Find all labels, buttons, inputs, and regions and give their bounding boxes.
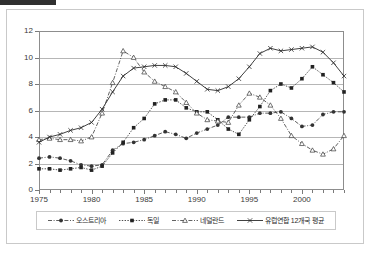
x-tick-minor: [81, 190, 82, 193]
data-point: [321, 152, 326, 156]
data-point: [153, 134, 157, 138]
data-point: [152, 79, 157, 83]
chart-legend: 오스트리아독일네덜란드유럽연합 12개국 평균: [36, 211, 336, 230]
legend-item-1[interactable]: 오스트리아: [48, 216, 106, 225]
data-point: [300, 125, 304, 129]
data-point: [132, 126, 136, 130]
chart-page: 024681012 197519801985199019952000 오스트리아…: [0, 0, 371, 254]
data-point: [132, 140, 136, 144]
data-point: [321, 113, 325, 117]
data-point: [311, 123, 315, 127]
data-point: [142, 117, 146, 121]
data-point: [37, 167, 41, 171]
data-point: [153, 102, 157, 106]
x-tick-major: [197, 190, 198, 194]
x-tick-minor: [323, 190, 324, 193]
x-tick-minor: [312, 190, 313, 193]
data-point: [216, 123, 220, 127]
data-point: [331, 147, 336, 151]
data-point: [310, 148, 315, 152]
x-tick-minor: [123, 190, 124, 193]
data-point: [268, 103, 273, 107]
x-tick-minor: [218, 190, 219, 193]
x-tick-label: 2000: [287, 196, 317, 204]
x-tick-minor: [207, 190, 208, 193]
data-point: [258, 111, 262, 115]
legend-item-2[interactable]: 독일: [119, 216, 159, 225]
data-point: [321, 50, 325, 54]
data-point: [290, 117, 294, 121]
data-point: [290, 86, 294, 90]
y-tick-label: 2: [3, 160, 33, 168]
data-point: [110, 80, 115, 84]
x-tick-minor: [281, 190, 282, 193]
data-point: [300, 141, 305, 145]
data-point: [163, 84, 168, 88]
x-tick-label: 1985: [129, 196, 159, 204]
legend-item-4[interactable]: 유럽연합 12개국 평균: [237, 216, 325, 225]
x-tick-minor: [291, 190, 292, 193]
data-point: [184, 100, 189, 104]
y-tick-label: 10: [3, 54, 33, 62]
x-tick-minor: [239, 190, 240, 193]
legend-swatch-open-triangle-icon: [172, 216, 198, 225]
data-point: [226, 120, 231, 124]
series-1: [37, 110, 346, 168]
data-point: [174, 132, 178, 136]
series-line: [39, 47, 344, 142]
data-point: [89, 135, 94, 139]
data-point: [48, 167, 52, 171]
data-point: [173, 90, 178, 94]
data-point: [279, 82, 283, 86]
series-layer: [39, 31, 344, 190]
data-point: [142, 138, 146, 142]
data-point: [195, 79, 199, 83]
legend-item-3[interactable]: 네덜란드: [172, 216, 224, 225]
data-point: [205, 110, 209, 114]
data-point: [279, 110, 283, 114]
data-point: [69, 167, 73, 171]
data-point: [121, 141, 125, 145]
x-tick-minor: [71, 190, 72, 193]
data-point: [174, 98, 178, 102]
data-point: [90, 168, 94, 172]
data-point: [227, 127, 231, 131]
x-tick-minor: [102, 190, 103, 193]
data-point: [184, 136, 188, 140]
series-3: [37, 48, 347, 156]
data-point: [37, 156, 41, 160]
x-tick-major: [249, 190, 250, 194]
x-tick-major: [144, 190, 145, 194]
data-point: [121, 48, 126, 52]
data-point: [269, 89, 273, 93]
data-point: [68, 137, 73, 141]
data-point: [342, 133, 347, 137]
data-point: [342, 74, 346, 78]
data-point: [342, 90, 346, 94]
x-tick-label: 1980: [77, 196, 107, 204]
x-tick-major: [302, 190, 303, 194]
data-point: [247, 65, 251, 69]
data-point: [258, 105, 262, 109]
data-point: [110, 90, 114, 94]
x-tick-minor: [165, 190, 166, 193]
data-point: [237, 77, 241, 81]
legend-label: 네덜란드: [200, 217, 224, 224]
data-point: [311, 65, 315, 69]
x-tick-minor: [134, 190, 135, 193]
data-point: [248, 118, 252, 122]
legend-label: 오스트리아: [76, 217, 106, 224]
legend-label: 독일: [147, 217, 159, 224]
x-tick-minor: [155, 190, 156, 193]
x-tick-major: [92, 190, 93, 194]
data-point: [90, 164, 94, 168]
x-tick-label: 1990: [182, 196, 212, 204]
data-point: [79, 166, 83, 170]
data-point: [58, 168, 62, 172]
data-point: [268, 111, 272, 115]
x-tick-minor: [270, 190, 271, 193]
x-tick-major: [39, 190, 40, 194]
data-point: [205, 117, 210, 121]
data-point: [258, 51, 262, 55]
data-point: [48, 155, 52, 159]
